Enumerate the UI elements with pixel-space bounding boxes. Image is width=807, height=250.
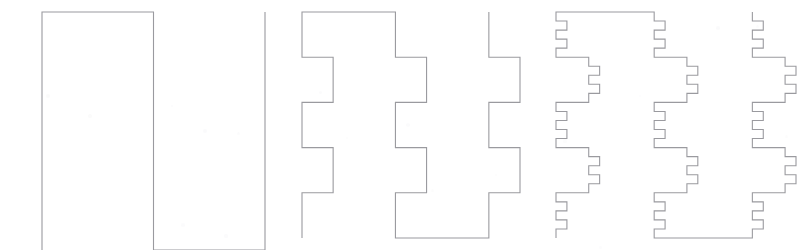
figure-canvas	[0, 0, 807, 250]
panel-iteration-3	[0, 0, 807, 250]
curve-svg-iteration-3	[0, 0, 807, 250]
curve-path-iteration-3	[556, 12, 796, 238]
